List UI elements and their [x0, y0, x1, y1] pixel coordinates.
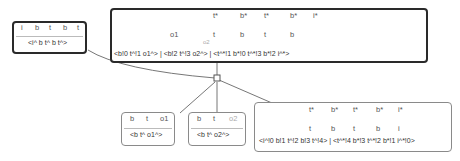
node-signature: <i^ b t^ b t^>: [28, 39, 67, 46]
token: t: [146, 114, 148, 123]
token-bottom: b: [376, 124, 380, 133]
token-top: t*: [213, 11, 218, 20]
node-source[interactable]: i b t b t <i^ b t^ b t^>: [12, 21, 87, 54]
node-signature: <b t^ o1^>: [130, 131, 162, 138]
token-top: b*: [376, 105, 383, 114]
token-t: t: [77, 23, 79, 32]
token-top: t*: [309, 105, 314, 114]
node-signature: <i^!0 b!1 t^!2 b!3 t^!4> | <t^*!4 b*!3 t…: [259, 137, 415, 144]
token-b: b: [35, 23, 39, 32]
token-b: b: [63, 23, 67, 32]
token: o2: [229, 114, 237, 123]
token-bottom: b: [290, 30, 294, 39]
token-t: t: [49, 23, 51, 32]
node-signature: <b t^ o2^>: [197, 131, 229, 138]
loop-label: o2: [203, 39, 210, 45]
node-main-complex[interactable]: t* b* t* b* i* o1 t b t b o2 <b!0 t^!1 o…: [110, 8, 428, 63]
token: o1: [160, 114, 168, 123]
token-top: b*: [240, 11, 247, 20]
node-child-1[interactable]: b t o1 <b t^ o1^>: [121, 112, 175, 146]
token-top: t*: [264, 11, 269, 20]
token-bottom: o1: [170, 30, 178, 39]
token-bottom: i: [398, 124, 400, 133]
token-top: i*: [313, 11, 318, 20]
token: t: [213, 114, 215, 123]
token-top: b*: [290, 11, 297, 20]
token: b: [197, 114, 201, 123]
token-i: i: [21, 23, 23, 32]
token-top: t*: [353, 105, 358, 114]
token: b: [130, 114, 134, 123]
edge-junction-to-child1: [180, 82, 215, 113]
token-bottom: t: [213, 30, 215, 39]
node-signature: <b!0 t^!1 o1^> | <b!2 t^!3 o2^> | <t^*!1…: [114, 50, 289, 57]
token-bottom: b: [240, 30, 244, 39]
edge-junction-to-product: [219, 80, 272, 103]
node-product-complex[interactable]: t* b* t* b* i* t b t b i <i^!0 b!1 t^!2 …: [254, 102, 452, 152]
token-bottom: t: [309, 124, 311, 133]
token-bottom: b: [331, 124, 335, 133]
token-top: b*: [331, 105, 338, 114]
token-bottom: t: [264, 30, 266, 39]
reaction-junction: [214, 75, 220, 81]
token-top: i*: [398, 105, 403, 114]
token-bottom: t: [353, 124, 355, 133]
node-child-2[interactable]: b t o2 <b t^ o2^>: [188, 112, 246, 146]
